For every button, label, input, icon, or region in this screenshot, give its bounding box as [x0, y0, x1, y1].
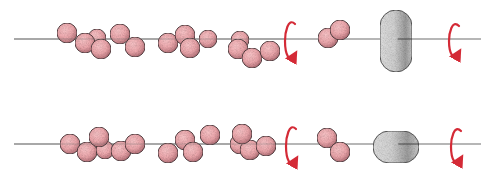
- rotation-arrow-icon: [286, 127, 296, 163]
- sphere-bead: [200, 125, 220, 145]
- dimer-model: [317, 128, 350, 162]
- rotation-diagram: [0, 0, 496, 178]
- ellipsoid-model: [380, 10, 412, 72]
- sphere-bead: [330, 142, 350, 162]
- sphere-bead: [330, 20, 350, 40]
- rotation-arrow-icon: [285, 22, 295, 58]
- rotation-arrow-icon: [451, 129, 461, 163]
- bottom-row: [14, 124, 481, 164]
- sphere-bead: [242, 48, 262, 68]
- sphere-bead: [91, 39, 111, 59]
- sphere-bead: [183, 142, 203, 162]
- ellipsoid-model: [373, 131, 419, 163]
- dimer-model: [318, 20, 350, 48]
- sphere-bead: [232, 124, 252, 144]
- rotation-arrow-icon: [449, 24, 459, 57]
- sphere-bead: [158, 143, 178, 163]
- top-row: [14, 10, 481, 72]
- bead-model-cluster: [60, 124, 276, 163]
- diagram-canvas: [0, 0, 496, 178]
- sphere-bead: [256, 136, 276, 156]
- sphere-bead: [125, 37, 145, 57]
- bead-model-cluster: [57, 23, 280, 68]
- sphere-bead: [57, 23, 77, 43]
- sphere-bead: [180, 38, 200, 58]
- sphere-bead: [260, 41, 280, 61]
